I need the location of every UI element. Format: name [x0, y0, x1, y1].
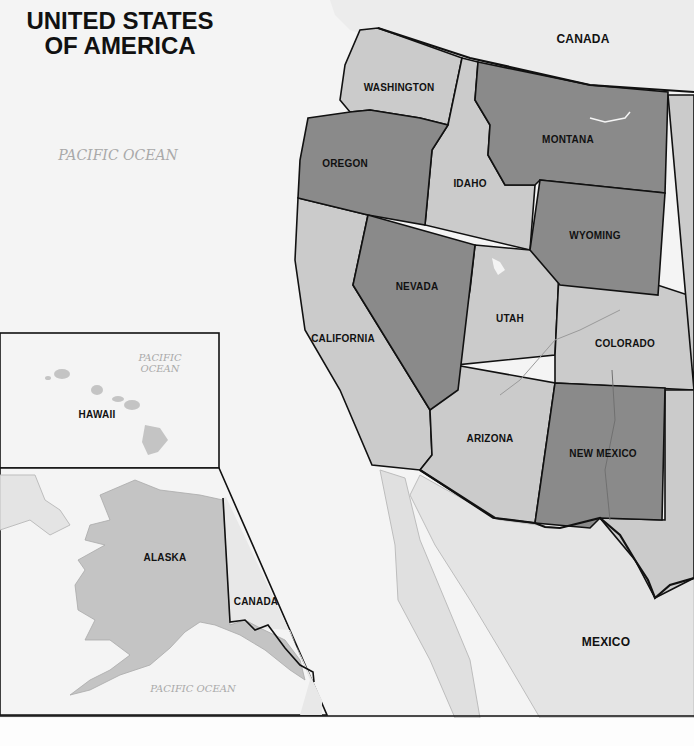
hawaii-ocean-line2: OCEAN — [138, 363, 181, 374]
map-title-line1: UNITED STATES — [20, 8, 220, 33]
canada-label: CANADA — [556, 32, 609, 46]
utah-label: UTAH — [496, 313, 524, 324]
hawaii-ocean-label: PACIFIC OCEAN — [138, 352, 181, 374]
colorado-label: COLORADO — [595, 338, 655, 349]
wyoming-label: WYOMING — [569, 230, 620, 241]
pacific-ocean-label: PACIFIC OCEAN — [58, 147, 178, 163]
montana-label: MONTANA — [542, 134, 594, 145]
washington-label: WASHINGTON — [364, 82, 435, 93]
map-title-line2: OF AMERICA — [20, 33, 220, 58]
western-us-map: UNITED STATES OF AMERICA PACIFIC OCEAN P… — [0, 0, 694, 746]
alaska-ocean-label: PACIFIC OCEAN — [150, 683, 235, 694]
new-mexico-label: NEW MEXICO — [569, 448, 637, 459]
canada-inset-label: CANADA — [234, 596, 279, 607]
california-label: CALIFORNIA — [311, 333, 375, 344]
idaho-label: IDAHO — [453, 178, 486, 189]
arizona-label: ARIZONA — [467, 433, 514, 444]
map-title: UNITED STATES OF AMERICA — [20, 8, 220, 58]
caption-area — [0, 718, 694, 746]
oregon-label: OREGON — [322, 158, 368, 169]
hawaii-ocean-line1: PACIFIC — [138, 352, 181, 363]
alaska-label: ALASKA — [144, 552, 187, 563]
mexico-label: MEXICO — [582, 635, 631, 649]
hawaii-inset-frame — [0, 333, 219, 468]
nevada-label: NEVADA — [396, 281, 439, 292]
hawaii-label: HAWAII — [79, 409, 116, 420]
